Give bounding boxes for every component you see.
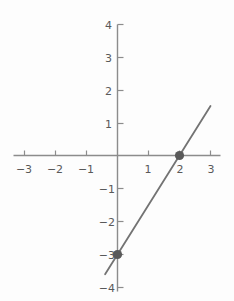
x-tick-label--3: −3 [16, 164, 32, 175]
plotted-line [105, 106, 210, 274]
x-tick-label-1: 1 [145, 164, 152, 175]
y-tick-label-1: 1 [105, 119, 112, 130]
y-tick-label--2: −2 [99, 217, 115, 228]
x-tick-label--2: −2 [47, 164, 63, 175]
data-point-2-0 [175, 151, 184, 160]
y-tick-label-4: 4 [105, 20, 112, 31]
x-tick-label-2: 2 [177, 164, 184, 175]
y-tick-label--4: −4 [99, 283, 115, 294]
chart-figure: −3 −2 −1 1 2 3 4 3 2 1 −1 −2 −3 −4 [0, 0, 234, 301]
y-tick-label-2: 2 [105, 86, 112, 97]
y-tick-label--1: −1 [99, 184, 115, 195]
chart-canvas [0, 0, 234, 301]
y-tick-label--3: −3 [99, 250, 115, 261]
x-tick-label-3: 3 [208, 164, 215, 175]
y-tick-label-3: 3 [105, 53, 112, 64]
x-tick-label--1: −1 [78, 164, 94, 175]
